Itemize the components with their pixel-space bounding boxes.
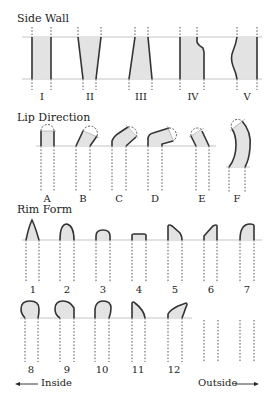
- side-wall-title: Side Wall: [17, 12, 69, 25]
- outside-arrow-icon: [235, 382, 259, 386]
- rim-label-9: 9: [57, 364, 77, 375]
- rim-11: [132, 302, 145, 362]
- lip-a: [41, 125, 56, 193]
- lip-label-e: E: [192, 193, 212, 204]
- lip-direction-section: [36, 119, 250, 192]
- side-wall-section: [22, 27, 262, 90]
- rim-form-row-1: [22, 220, 262, 283]
- side-wall-v: [232, 27, 258, 90]
- lip-label-a: A: [37, 193, 57, 204]
- empty-guides: [204, 320, 254, 362]
- lip-label-b: B: [73, 193, 93, 204]
- rim-7: [240, 224, 254, 283]
- rim-5: [168, 225, 182, 283]
- side-wall-iv: [180, 27, 204, 90]
- rim-8: [21, 301, 39, 362]
- side-wall-iii: [129, 27, 152, 90]
- rim-label-12: 12: [164, 364, 184, 375]
- side-wall-label-iii: III: [131, 91, 151, 102]
- side-wall-label-ii: II: [80, 91, 100, 102]
- lip-label-c: C: [109, 193, 129, 204]
- rim-label-2: 2: [57, 284, 77, 295]
- outside-label: Outside: [198, 377, 237, 388]
- rim-2: [60, 224, 74, 283]
- lip-b: [76, 126, 99, 192]
- lip-c: [112, 125, 138, 192]
- rim-label-4: 4: [129, 284, 149, 295]
- side-wall-label-i: I: [32, 91, 52, 102]
- rim-label-3: 3: [93, 284, 113, 295]
- rim-10: [95, 301, 111, 362]
- rim-4: [132, 234, 146, 283]
- rim-1: [26, 220, 39, 283]
- lip-label-d: D: [145, 193, 165, 204]
- rim-label-6: 6: [201, 284, 221, 295]
- inside-arrow-icon: [15, 382, 38, 386]
- rim-label-8: 8: [21, 364, 41, 375]
- side-wall-ii: [78, 27, 101, 90]
- rim-6: [204, 225, 217, 283]
- side-wall-i: [32, 27, 51, 90]
- rim-9: [55, 301, 74, 362]
- side-wall-label-v: V: [237, 91, 257, 102]
- rim-form-title: Rim Form: [17, 203, 72, 216]
- lip-d: [148, 126, 176, 192]
- rim-12: [168, 303, 187, 362]
- lip-label-f: F: [227, 193, 247, 204]
- lip-direction-title: Lip Direction: [17, 111, 90, 124]
- rim-label-11: 11: [128, 364, 148, 375]
- rim-form-row-2: [20, 301, 254, 362]
- lip-e: [189, 128, 209, 192]
- rim-label-1: 1: [23, 284, 43, 295]
- side-wall-label-iv: IV: [183, 91, 203, 102]
- rim-3: [96, 230, 110, 283]
- rim-label-5: 5: [165, 284, 185, 295]
- lip-f: [226, 119, 250, 192]
- inside-label: Inside: [41, 377, 72, 388]
- rim-label-10: 10: [92, 364, 112, 375]
- rim-label-7: 7: [237, 284, 257, 295]
